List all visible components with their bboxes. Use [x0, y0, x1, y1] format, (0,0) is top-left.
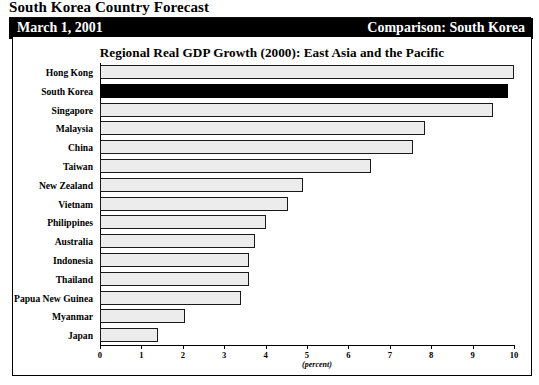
category-label: Indonesia [13, 251, 93, 270]
x-tick-mark [100, 345, 101, 349]
x-tick-mark [390, 345, 391, 349]
category-label: Hong Kong [13, 63, 93, 82]
bar-row: Vietnam [13, 195, 533, 214]
x-tick-mark [183, 345, 184, 349]
x-tick-label: 5 [295, 350, 319, 360]
bar-row: Papua New Guinea [13, 289, 533, 308]
bar [100, 309, 185, 323]
category-label: Malaysia [13, 119, 93, 138]
bar [100, 328, 158, 342]
x-tick-label: 3 [212, 350, 236, 360]
bar [100, 103, 493, 117]
bar [100, 178, 303, 192]
header-date: March 1, 2001 [17, 20, 103, 36]
category-label: Myanmar [13, 307, 93, 326]
x-tick-label: 1 [129, 350, 153, 360]
x-tick-mark [307, 345, 308, 349]
x-tick-label: 6 [336, 350, 360, 360]
chart-title: Regional Real GDP Growth (2000): East As… [13, 45, 531, 61]
x-tick-mark [431, 345, 432, 349]
category-label: Thailand [13, 270, 93, 289]
bar [100, 121, 425, 135]
bar [100, 197, 288, 211]
category-label: South Korea [13, 82, 93, 101]
category-label: Vietnam [13, 195, 93, 214]
category-label: Philippines [13, 213, 93, 232]
x-tick-label: 7 [378, 350, 402, 360]
bar-row: South Korea [13, 82, 533, 101]
x-tick-label: 8 [419, 350, 443, 360]
bar-row: Thailand [13, 270, 533, 289]
category-label: New Zealand [13, 176, 93, 195]
bar-row: New Zealand [13, 176, 533, 195]
header-comparison-label: Comparison: South Korea [367, 20, 525, 36]
x-tick-mark [348, 345, 349, 349]
bar [100, 234, 255, 248]
document-header: South Korea Country Forecast March 1, 20… [0, 0, 539, 40]
chart-panel: Regional Real GDP Growth (2000): East As… [12, 36, 532, 376]
plot-area: Hong KongSouth KoreaSingaporeMalaysiaChi… [13, 63, 533, 377]
x-tick-label: 0 [88, 350, 112, 360]
bar [100, 84, 508, 98]
x-tick-mark [514, 345, 515, 349]
bar-row: Malaysia [13, 119, 533, 138]
x-tick-label: 2 [171, 350, 195, 360]
bar-row: Indonesia [13, 251, 533, 270]
category-label: Papua New Guinea [13, 289, 93, 308]
bar-row: Taiwan [13, 157, 533, 176]
bar [100, 65, 514, 79]
x-axis-label: (percent) [13, 360, 533, 369]
bar-row: Myanmar [13, 307, 533, 326]
category-label: Singapore [13, 101, 93, 120]
x-tick-label: 4 [254, 350, 278, 360]
x-tick-mark [473, 345, 474, 349]
bar [100, 215, 266, 229]
document-title: South Korea Country Forecast [9, 0, 209, 16]
bar [100, 140, 413, 154]
bar-row: China [13, 138, 533, 157]
x-tick-mark [224, 345, 225, 349]
bar [100, 253, 249, 267]
x-tick-mark [141, 345, 142, 349]
bar-row: Philippines [13, 213, 533, 232]
category-label: China [13, 138, 93, 157]
bar-row: Singapore [13, 101, 533, 120]
bar [100, 159, 371, 173]
category-label: Japan [13, 326, 93, 345]
x-tick-label: 9 [461, 350, 485, 360]
category-label: Taiwan [13, 157, 93, 176]
bar-row: Australia [13, 232, 533, 251]
bar [100, 291, 241, 305]
bar-row: Japan [13, 326, 533, 345]
x-tick-label: 10 [502, 350, 526, 360]
bar [100, 272, 249, 286]
category-label: Australia [13, 232, 93, 251]
bar-row: Hong Kong [13, 63, 533, 82]
x-tick-mark [266, 345, 267, 349]
